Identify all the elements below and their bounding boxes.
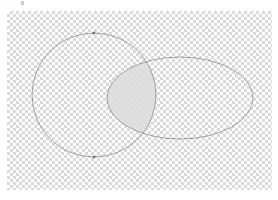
transparent-artboard[interactable] [7,11,272,190]
node-bottom[interactable] [93,156,95,158]
toolbar-indicator-dot[interactable] [21,1,24,5]
vector-canvas-svg[interactable] [7,11,272,190]
node-handles[interactable] [93,32,95,158]
toolbar-residual-glyphs: .... [2,1,13,7]
intersection-region[interactable] [107,57,253,139]
toolbar-strip: .... [0,0,278,9]
node-top[interactable] [93,32,95,34]
canvas-app: .... [0,0,278,200]
